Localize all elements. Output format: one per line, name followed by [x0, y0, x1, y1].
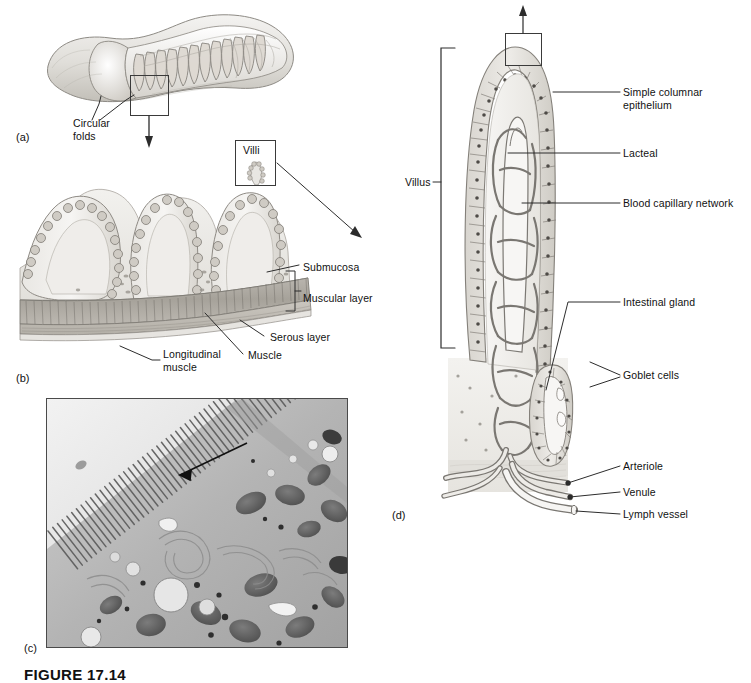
panel-d-callout-box — [505, 33, 542, 66]
muscle-label: Muscle — [248, 349, 282, 362]
lacteal-label: Lacteal — [623, 147, 658, 160]
figure-caption: FIGURE 17.14 — [24, 666, 126, 683]
panel-a-intestine-illustration — [40, 8, 330, 128]
blood-capillary-network-label: Blood capillary network — [623, 197, 733, 210]
panel-a-callout-box — [130, 75, 169, 116]
lymph-vessel-label: Lymph vessel — [623, 508, 688, 521]
arteriole-label: Arteriole — [623, 460, 663, 473]
longitudinal-muscle-label: Longitudinal muscle — [163, 348, 221, 373]
muscular-layer-label: Muscular layer — [303, 292, 373, 305]
goblet-cells-label: Goblet cells — [623, 369, 679, 382]
panel-d-villus-illustration — [440, 20, 590, 520]
villi-box-inset-art — [237, 158, 274, 185]
simple-columnar-epithelium-label: Simple columnar epithelium — [623, 86, 703, 111]
panel-tag-a: (a) — [16, 131, 29, 143]
intestinal-gland-label: Intestinal gland — [623, 296, 695, 309]
panel-tag-d: (d) — [392, 509, 405, 521]
venule-label: Venule — [623, 486, 656, 499]
submucosa-label: Submucosa — [303, 261, 359, 274]
circular-folds-label: Circular folds — [73, 117, 110, 142]
villi-label: Villi — [243, 144, 260, 157]
panel-c-electron-micrograph — [47, 399, 347, 647]
serous-layer-label: Serous layer — [270, 331, 330, 344]
panel-tag-b: (b) — [16, 372, 29, 384]
villus-bracket-label: Villus — [405, 176, 431, 189]
panel-tag-c: (c) — [24, 642, 37, 654]
panel-c-micrograph-frame — [46, 398, 348, 648]
